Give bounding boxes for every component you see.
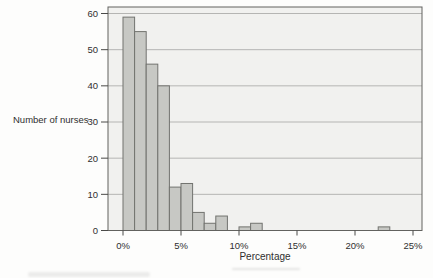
y-axis-title: Number of nurses [13, 114, 89, 125]
histogram-bar [135, 32, 147, 231]
x-axis-title: Percentage [239, 251, 290, 262]
histogram-bar [123, 17, 135, 230]
x-tick-label: 25% [403, 240, 423, 251]
x-tick-label: 5% [174, 240, 188, 251]
histogram-bar [193, 212, 205, 230]
y-tick-label: 50 [87, 44, 98, 55]
y-tick-label: 60 [87, 8, 98, 19]
histogram-bar [378, 227, 390, 231]
y-tick-label: 30 [87, 116, 98, 127]
histogram-bar [239, 227, 251, 231]
histogram-bar [216, 216, 228, 230]
y-tick-label: 10 [87, 189, 98, 200]
histogram-bar [181, 183, 193, 230]
x-tick-label: 10% [229, 240, 249, 251]
histogram-bar [146, 64, 158, 230]
histogram-bar [204, 223, 216, 230]
y-tick-label: 0 [93, 225, 98, 236]
y-tick-label: 40 [87, 80, 98, 91]
x-tick-label: 20% [345, 240, 365, 251]
scan-artifact [232, 268, 300, 270]
x-tick-label: 0% [116, 240, 130, 251]
x-tick-label: 15% [287, 240, 307, 251]
y-tick-label: 20 [87, 153, 98, 164]
histogram-bar [251, 223, 263, 230]
cropped-caption-artifact [28, 272, 150, 277]
histogram-figure: 01020304050600%5%10%15%20%25% Number of … [0, 0, 433, 278]
histogram-bar [169, 187, 181, 230]
histogram-bar [158, 86, 170, 231]
histogram-chart: 01020304050600%5%10%15%20%25% [0, 0, 433, 278]
